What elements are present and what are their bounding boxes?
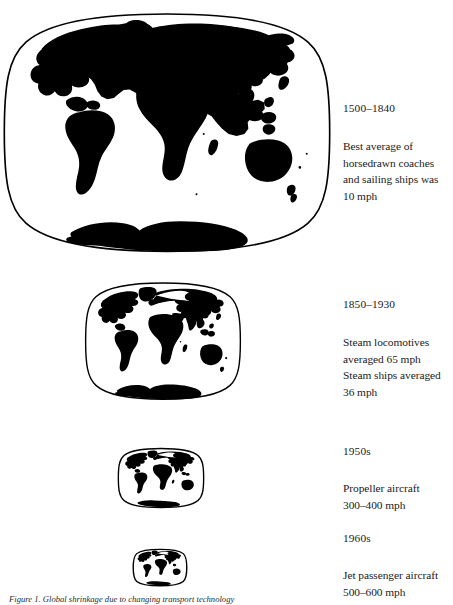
figure-caption: Figure 1. Global shrinkage due to changi… <box>9 594 339 605</box>
era-description-4: Jet passenger aircraft 500–600 mph <box>343 567 453 600</box>
annotation-block-3: 1950s Propeller aircraft 300–400 mph <box>343 444 453 513</box>
annotation-block-2: 1850–1930 Steam locomotives averaged 65 … <box>343 297 453 400</box>
era-label-3: 1950s <box>343 444 453 458</box>
figure-canvas: 1500–1840 Best average of horsedrawn coa… <box>0 0 453 605</box>
era-label-4: 1960s <box>343 531 453 545</box>
era-description-2: Steam locomotives averaged 65 mph Steam … <box>343 334 453 400</box>
world-map-tiny-svg <box>133 549 187 586</box>
world-map-large-svg <box>3 12 331 253</box>
world-map-small <box>118 448 204 508</box>
era-description-1: Best average of horsedrawn coaches and s… <box>343 138 453 204</box>
world-map-medium <box>85 282 241 400</box>
annotation-block-1: 1500–1840 Best average of horsedrawn coa… <box>343 101 453 204</box>
era-label-2: 1850–1930 <box>343 297 453 311</box>
world-map-large <box>3 12 331 253</box>
era-description-3: Propeller aircraft 300–400 mph <box>343 480 453 513</box>
era-label-1: 1500–1840 <box>343 101 453 115</box>
world-map-small-svg <box>118 448 204 508</box>
world-map-tiny <box>133 549 187 586</box>
world-map-medium-svg <box>85 282 241 400</box>
annotation-block-4: 1960s Jet passenger aircraft 500–600 mph <box>343 531 453 600</box>
